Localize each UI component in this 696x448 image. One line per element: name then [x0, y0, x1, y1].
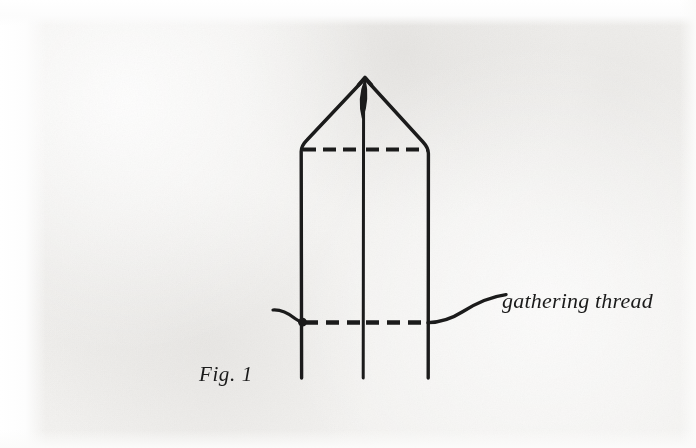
gathering-thread-label: gathering thread [502, 288, 653, 314]
gathering-thread [273, 295, 506, 323]
paper-outline [301, 79, 428, 378]
thread-knot [298, 318, 307, 327]
figure-caption: Fig. 1 [199, 362, 253, 387]
needle-eye-shape [360, 80, 366, 118]
figure-page: gathering thread Fig. 1 [0, 0, 696, 448]
thread-left-tail [273, 310, 302, 322]
thread-right-tail-leader [428, 295, 506, 323]
origami-fold-diagram [0, 0, 696, 448]
left-shoulder-and-edge [301, 79, 364, 378]
right-shoulder-and-edge [366, 79, 429, 378]
apex-needle-eye [359, 78, 372, 119]
